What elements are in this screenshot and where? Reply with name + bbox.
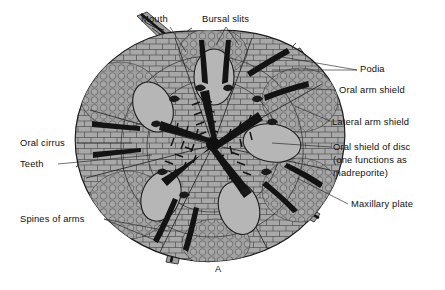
label-oral-shield-of-disc-line1: Oral shield of disc xyxy=(333,141,411,152)
label-mouth: Mouth xyxy=(141,13,168,24)
label-lateral-arm-shield: Lateral arm shield xyxy=(332,116,409,127)
label-bursal-slits: Bursal slits xyxy=(202,13,249,24)
label-teeth: Teeth xyxy=(20,158,44,169)
label-oral-cirrus: Oral cirrus xyxy=(20,137,65,148)
label-oral-arm-shield: Oral arm shield xyxy=(339,84,405,95)
label-oral-shield-of-disc-line2: (one functions as xyxy=(333,154,407,165)
brittle-star-diagram: Mouth Bursal slits Podia Oral arm shield… xyxy=(0,0,445,290)
label-maxillary-plate: Maxillary plate xyxy=(351,198,413,209)
mouth-center xyxy=(206,137,220,151)
figure-root: Mouth Bursal slits Podia Oral arm shield… xyxy=(0,0,445,290)
label-podia: Podia xyxy=(360,63,385,74)
figure-caption: A xyxy=(215,264,222,274)
label-oral-shield-of-disc-line3: madreporite) xyxy=(333,167,388,178)
label-spines-of-arms: Spines of arms xyxy=(20,213,85,224)
